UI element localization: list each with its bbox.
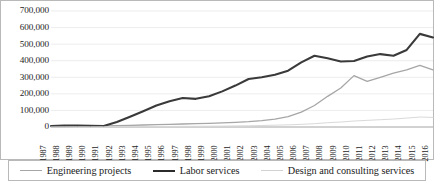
legend-item-design-consulting: Design and consulting services <box>261 165 414 176</box>
x-axis-tick-label: 2002 <box>237 145 245 161</box>
legend-label: Labor services <box>180 165 240 176</box>
x-axis-tick-label: 2015 <box>408 145 416 161</box>
legend-label: Engineering projects <box>47 165 132 176</box>
x-axis-tick-label: 2010 <box>342 145 350 161</box>
legend-line-icon-design <box>261 170 283 171</box>
y-axis-tick-label: 600,000 <box>3 23 49 32</box>
figure-caption <box>2 182 202 193</box>
x-axis-tick-label: 2004 <box>263 145 271 161</box>
chart-plot-frame: 700,000600,000500,000400,000300,000200,0… <box>0 0 434 160</box>
legend-item-engineering-projects: Engineering projects <box>20 165 132 176</box>
x-axis-labels: 1987198819891990199119921993199419951996… <box>51 128 433 161</box>
chart-legend: Engineering projects Labor services Desi… <box>8 160 426 181</box>
x-axis-tick-label: 2000 <box>211 145 219 161</box>
legend-line-icon-engineering <box>20 170 42 171</box>
x-axis-tick-label: 1998 <box>184 145 192 161</box>
y-axis-tick-label: 0 <box>3 122 49 131</box>
chart-figure: 700,000600,000500,000400,000300,000200,0… <box>0 0 434 193</box>
x-axis-tick-label: 1994 <box>132 145 140 161</box>
series-line <box>51 65 433 126</box>
y-axis-tick-label: 500,000 <box>3 40 49 49</box>
x-axis-tick-label: 2006 <box>290 145 298 161</box>
x-axis-tick-label: 1996 <box>158 145 166 161</box>
x-axis-tick-label: 2014 <box>395 145 403 161</box>
x-axis-tick-label: 1989 <box>66 145 74 161</box>
x-axis-tick-label: 2001 <box>224 145 232 161</box>
x-axis-tick-label: 1993 <box>118 145 126 161</box>
x-axis-tick-label: 1992 <box>105 145 113 161</box>
x-axis-tick-label: 2013 <box>382 145 390 161</box>
y-axis-tick-label: 700,000 <box>3 6 49 15</box>
y-axis-tick-label: 200,000 <box>3 89 49 98</box>
x-axis-tick-label: 1991 <box>92 145 100 161</box>
x-axis-tick-label: 2007 <box>303 145 311 161</box>
x-axis-tick-label: 1987 <box>39 145 47 161</box>
series-line <box>51 34 433 126</box>
x-axis-tick-label: 2009 <box>329 145 337 161</box>
legend-item-labor-services: Labor services <box>153 165 240 176</box>
x-axis-tick-label: 2005 <box>276 145 284 161</box>
y-axis-tick-label: 400,000 <box>3 56 49 65</box>
legend-line-icon-labor <box>153 170 175 172</box>
x-axis-tick-label: 2011 <box>356 145 364 161</box>
x-axis-tick-label: 1997 <box>171 145 179 161</box>
y-axis-tick-label: 300,000 <box>3 73 49 82</box>
series-canvas <box>51 11 433 127</box>
y-axis-labels: 700,000600,000500,000400,000300,000200,0… <box>1 1 49 161</box>
y-axis-tick-label: 100,000 <box>3 106 49 115</box>
legend-label: Design and consulting services <box>288 165 414 176</box>
x-axis-tick-label: 1988 <box>53 145 61 161</box>
x-axis-tick-label: 2003 <box>250 145 258 161</box>
plot-area <box>51 11 433 127</box>
x-axis-tick-label: 2016 <box>421 145 429 161</box>
x-axis-tick-label: 1995 <box>145 145 153 161</box>
x-axis-tick-label: 1990 <box>79 145 87 161</box>
x-axis-tick-label: 2008 <box>316 145 324 161</box>
x-axis-tick-label: 1999 <box>197 145 205 161</box>
x-axis-tick-label: 2012 <box>369 145 377 161</box>
